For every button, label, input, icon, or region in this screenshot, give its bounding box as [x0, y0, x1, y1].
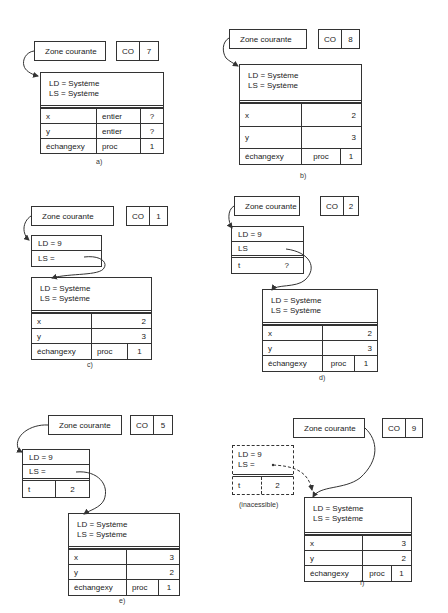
var-type: proc: [322, 356, 354, 371]
var-name: y: [41, 124, 96, 138]
var-name: x: [32, 314, 91, 328]
zone-courante-box: Zone courante: [293, 418, 365, 438]
local-var-row: t 2: [233, 477, 293, 494]
var-value: 1: [391, 566, 411, 581]
ld-line: LD = 9: [238, 450, 288, 460]
frame-header: LD = Système LS = Système: [263, 290, 377, 325]
var-type: proc: [301, 149, 340, 164]
local-frame: LD = 9 LS t ?: [231, 226, 304, 274]
ld-line: LD = Système: [313, 504, 403, 514]
var-type: proc: [126, 580, 158, 595]
global-frame: LD = Système LS = Système x 2 y 3 échang…: [31, 277, 152, 360]
co-value: 7: [140, 42, 158, 60]
global-frame: LD = Système LS = Système x entier ? y e…: [40, 72, 164, 154]
table-row: y 2: [69, 564, 179, 579]
zone-courante-box: Zone courante: [229, 29, 307, 49]
var-value: 1: [354, 356, 377, 371]
co-label: CO: [131, 416, 154, 434]
var-name: échangexy: [69, 580, 126, 595]
zone-courante-box: Zone courante: [34, 41, 106, 61]
local-var-row: t ?: [232, 258, 303, 273]
arrow-icon: [313, 428, 375, 497]
var-value: 2: [362, 551, 411, 565]
co-value: 1: [150, 207, 167, 225]
caption: a): [96, 158, 102, 165]
caption: e): [119, 597, 125, 604]
var-name: x: [263, 326, 322, 340]
frame-header: LD = Système LS = Système: [41, 73, 163, 108]
ls-line: LS: [232, 242, 303, 258]
table-row: échangexy proc 1: [41, 138, 163, 153]
table-row: x 2: [240, 103, 361, 126]
var-name: x: [41, 109, 96, 123]
co-value: 2: [344, 197, 358, 215]
ls-line: LS = Système: [77, 530, 171, 540]
global-frame: LD = Système LS = Système x 3 y 2 échang…: [304, 497, 412, 582]
co-register: CO 9: [382, 418, 423, 438]
frame-header: LD = Système LS = Système: [32, 278, 151, 313]
local-frame: LD = 9 LS =: [31, 235, 102, 267]
table-row: x 2: [263, 325, 377, 340]
var-name: x: [69, 550, 126, 564]
table-row: échangexy proc 1: [240, 148, 361, 164]
var-value: 2: [91, 314, 151, 328]
co-register: CO 1: [126, 206, 168, 226]
var-value: 2: [55, 481, 89, 497]
ls-line: LS = Système: [271, 306, 369, 316]
zone-courante-label: Zone courante: [240, 35, 292, 44]
var-name: échangexy: [263, 356, 322, 371]
global-frame: LD = Système LS = Système x 3 y 2 échang…: [68, 513, 180, 596]
co-register: CO 2: [320, 196, 359, 216]
zone-courante-label: Zone courante: [42, 212, 94, 221]
caption: f): [360, 579, 364, 586]
var-name: échangexy: [32, 344, 91, 359]
inaccessible-local-frame: LD = 9 LS = t 2: [232, 445, 294, 495]
caption: d): [319, 374, 325, 381]
co-register: CO 7: [116, 41, 159, 61]
zone-courante-label: Zone courante: [45, 47, 97, 56]
var-value: 3: [362, 536, 411, 550]
table-row: échangexy proc 1: [305, 565, 411, 581]
var-value: ?: [140, 109, 163, 123]
local-frame: LD = 9 LS = t 2: [22, 449, 90, 498]
co-label: CO: [319, 30, 342, 48]
table-row: y 3: [32, 328, 151, 343]
co-label: CO: [383, 419, 406, 437]
ld-line: LD = 9: [232, 227, 303, 242]
co-register: CO 8: [318, 29, 360, 49]
ls-line: LS = Système: [313, 514, 403, 524]
table-row: échangexy proc 1: [69, 579, 179, 595]
var-value: 3: [301, 127, 361, 148]
table-row: y 3: [240, 126, 361, 148]
frame-header: LD = Système LS = Système: [69, 514, 179, 549]
zone-courante-label: Zone courante: [245, 202, 297, 211]
var-value: ?: [285, 261, 289, 270]
var-value: 3: [126, 550, 179, 564]
co-label: CO: [127, 207, 150, 225]
ld-line: LD = 9: [23, 450, 89, 465]
var-name: x: [240, 104, 301, 126]
var-value: 1: [158, 580, 179, 595]
table-row: x 3: [69, 549, 179, 564]
local-var-row: t 2: [23, 481, 89, 497]
table-row: échangexy proc 1: [32, 343, 151, 359]
var-name: y: [69, 565, 126, 579]
table-row: x entier ?: [41, 108, 163, 123]
var-value: ?: [140, 124, 163, 138]
arrow-icon: [24, 216, 31, 240]
zone-courante-label: Zone courante: [59, 421, 111, 430]
ld-line: LD = Système: [271, 296, 369, 306]
var-type: proc: [96, 139, 140, 153]
table-row: y entier ?: [41, 123, 163, 138]
caption: b): [300, 172, 306, 179]
var-value: 1: [127, 344, 151, 359]
var-value: 2: [322, 326, 377, 340]
var-type: entier: [96, 109, 140, 123]
co-label: CO: [117, 42, 140, 60]
var-value: 3: [91, 329, 151, 343]
global-frame: LD = Système LS = Système x 2 y 3 échang…: [262, 289, 378, 372]
var-name: échangexy: [41, 139, 96, 153]
zone-courante-box: Zone courante: [31, 206, 114, 226]
table-row: échangexy proc 1: [263, 355, 377, 371]
global-frame: LD = Système LS = Système x 2 y 3 échang…: [239, 64, 362, 165]
